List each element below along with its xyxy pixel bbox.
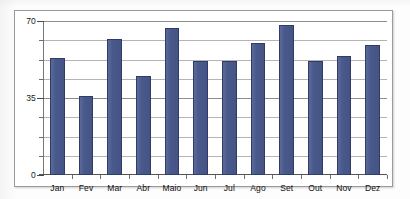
x-axis-label-jan: Jan bbox=[50, 183, 64, 193]
x-axis-tick bbox=[330, 175, 331, 179]
x-axis-tick bbox=[301, 175, 302, 179]
x-axis-label-jun: Jun bbox=[194, 183, 208, 193]
y-axis-label: 70 bbox=[26, 16, 36, 26]
y-axis-label: 0 bbox=[31, 170, 36, 180]
x-axis-tick bbox=[358, 175, 359, 179]
x-axis-label-dez: Dez bbox=[365, 183, 380, 193]
x-axis-label-fev: Fev bbox=[79, 183, 93, 193]
bar-maio bbox=[165, 28, 180, 175]
scanned-page-background: 70350 JanFevMarAbrMaioJunJulAgoSetOutNov… bbox=[0, 0, 410, 199]
x-axis-tick bbox=[244, 175, 245, 179]
x-axis-label-maio: Maio bbox=[163, 183, 182, 193]
bar-series bbox=[43, 21, 387, 175]
x-axis-tick bbox=[129, 175, 130, 179]
x-axis-tick bbox=[158, 175, 159, 179]
bar-jan bbox=[50, 58, 65, 175]
bar-dez bbox=[365, 45, 380, 175]
y-axis-label: 35 bbox=[26, 93, 36, 103]
x-axis-tick bbox=[100, 175, 101, 179]
bar-jun bbox=[193, 61, 208, 175]
x-axis-label-abr: Abr bbox=[137, 183, 151, 193]
bar-ago bbox=[251, 43, 266, 175]
plot-area: 70350 JanFevMarAbrMaioJunJulAgoSetOutNov… bbox=[43, 21, 387, 175]
x-axis-label-jul: Jul bbox=[224, 183, 235, 193]
y-axis-tick bbox=[37, 175, 44, 176]
x-axis-label-ago: Ago bbox=[250, 183, 265, 193]
bar-fev bbox=[79, 96, 94, 175]
x-axis-tick bbox=[215, 175, 216, 179]
x-axis-tick bbox=[387, 175, 388, 179]
x-axis-label-mar: Mar bbox=[107, 183, 122, 193]
bar-nov bbox=[337, 56, 352, 175]
bar-mar bbox=[107, 39, 122, 175]
x-axis-tick bbox=[72, 175, 73, 179]
x-axis-label-out: Out bbox=[308, 183, 322, 193]
x-axis-tick bbox=[272, 175, 273, 179]
x-axis-label-nov: Nov bbox=[336, 183, 351, 193]
bar-abr bbox=[136, 76, 151, 175]
bar-set bbox=[279, 25, 294, 175]
chart-frame: 70350 JanFevMarAbrMaioJunJulAgoSetOutNov… bbox=[14, 10, 393, 187]
x-axis-label-set: Set bbox=[280, 183, 293, 193]
bar-jul bbox=[222, 61, 237, 175]
x-axis-tick bbox=[186, 175, 187, 179]
bar-out bbox=[308, 61, 323, 175]
